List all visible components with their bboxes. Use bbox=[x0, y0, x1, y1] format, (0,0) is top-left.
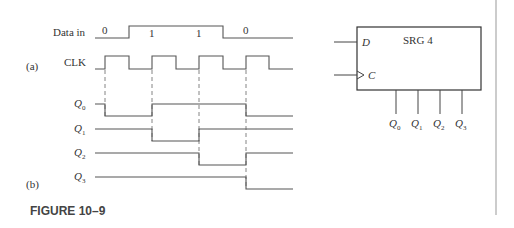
data-bit-1: 1 bbox=[149, 27, 155, 39]
figure-caption: FIGURE 10–9 bbox=[30, 204, 106, 218]
clock-triangle-icon bbox=[357, 71, 364, 79]
q0-waveform bbox=[95, 104, 293, 116]
clk-label: CLK bbox=[64, 56, 86, 68]
q3-label: Q3 bbox=[74, 170, 86, 185]
srg4-block: SRG 4 D C Q0 Q1 Q2 Q3 bbox=[334, 27, 481, 132]
part-b-label: (b) bbox=[26, 178, 39, 191]
output-q1-label: Q1 bbox=[411, 117, 423, 132]
output-q3-label: Q3 bbox=[455, 117, 467, 132]
d-input-label: D bbox=[361, 36, 370, 48]
data-bit-0: 0 bbox=[102, 24, 108, 36]
q2-waveform bbox=[95, 153, 293, 165]
data-bit-3: 0 bbox=[243, 24, 249, 36]
q3-waveform bbox=[95, 177, 293, 189]
q0-label: Q0 bbox=[74, 97, 86, 112]
output-q2-label: Q2 bbox=[433, 117, 445, 132]
q1-waveform bbox=[95, 129, 293, 141]
q1-label: Q1 bbox=[74, 122, 86, 137]
c-input-label: C bbox=[368, 69, 376, 81]
data-in-label: Data in bbox=[53, 26, 86, 38]
output-q0-label: Q0 bbox=[389, 117, 401, 132]
block-title: SRG 4 bbox=[403, 34, 433, 46]
shift-register-figure: Data in (a) CLK 0 1 1 0 Q0 Q1 Q2 Q3 (b) … bbox=[0, 0, 514, 228]
clk-waveform bbox=[95, 56, 293, 69]
data-bit-2: 1 bbox=[196, 27, 202, 39]
part-a-label: (a) bbox=[26, 60, 39, 73]
data-in-waveform: 0 1 1 0 bbox=[95, 24, 293, 39]
q2-label: Q2 bbox=[74, 146, 86, 161]
